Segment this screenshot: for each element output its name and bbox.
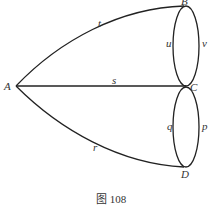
figure-caption: 图 108 (96, 193, 127, 205)
edge-label-u: u (166, 37, 172, 49)
edge-label-t: t (98, 17, 102, 29)
vertex-label-B: B (181, 0, 188, 7)
graph-diagram: A B C D t s r u v q p 图 108 (0, 0, 213, 206)
vertex-label-A: A (3, 80, 11, 92)
edge-label-q: q (167, 120, 173, 132)
vertex-label-D: D (180, 168, 189, 180)
edges-q-p-loop (173, 87, 199, 167)
edges-u-v-loop (173, 6, 199, 86)
vertex-label-C: C (190, 81, 198, 93)
edge-label-s: s (112, 74, 116, 86)
edge-label-v: v (202, 37, 207, 49)
edge-label-p: p (201, 120, 208, 132)
edge-r (16, 86, 184, 167)
edge-label-r: r (93, 141, 98, 153)
